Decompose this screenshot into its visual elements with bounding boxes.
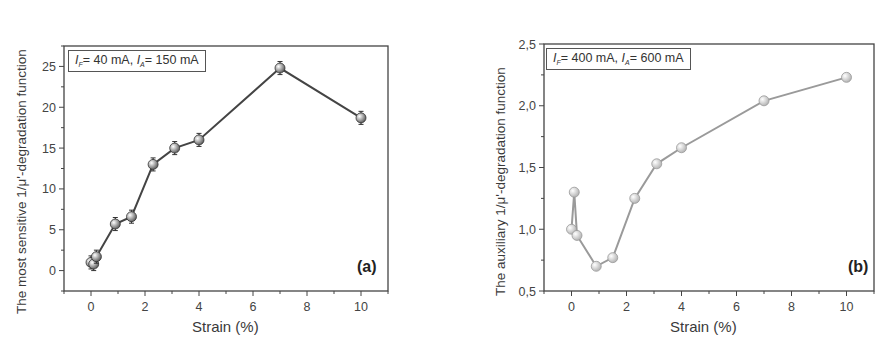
x-tick-label: 10 [354,300,368,314]
data-point-marker [572,230,582,240]
panel-label-b: (b) [848,258,868,276]
y-tick-label: 25 [42,60,56,74]
x-axis-label-a: Strain (%) [192,318,259,335]
y-tick-label: 1,5 [519,161,536,175]
plot-frame [544,44,874,291]
data-point-marker [275,63,285,73]
plot-frame [64,46,388,291]
y-tick-label: 20 [42,101,56,115]
legend-ia-value: = 600 mA [630,51,684,65]
x-tick-label: 10 [840,300,854,314]
y-axis-label-a: The most sensitive 1/μ'-degradation func… [14,49,29,314]
y-tick-label: 15 [42,142,56,156]
data-point-marker [652,159,662,169]
series-line [91,68,361,264]
y-tick-label: 2,5 [519,38,536,52]
data-point-marker [356,113,366,123]
legend-if-value: = 40 mA, [83,53,137,67]
chart-panel-a: 02468100510152025 The most sensitive 1/μ… [0,0,448,352]
x-tick-label: 4 [196,300,203,314]
x-tick-label: 8 [788,300,795,314]
data-point-marker [842,72,852,82]
legend-ia-value: = 150 mA [145,53,199,67]
x-tick-label: 8 [304,300,311,314]
y-axis-label-b: The auxiliary 1/μ'-degradation function [493,67,508,296]
data-point-marker [194,135,204,145]
series-line [572,77,847,266]
data-point-marker [608,253,618,263]
x-tick-label: 6 [733,300,740,314]
data-point-marker [630,193,640,203]
data-point-marker [110,219,120,229]
data-point-marker [127,212,137,222]
y-tick-label: 2,0 [519,99,536,113]
legend-b: IF= 400 mA, IA= 600 mA [546,48,691,70]
data-point-marker [677,143,687,153]
data-point-marker [170,143,180,153]
chart-panel-b: 02468100,51,01,52,02,5 The auxiliary 1/μ… [448,0,896,352]
data-point-marker [569,187,579,197]
x-tick-label: 6 [250,300,257,314]
y-tick-label: 5 [49,223,56,237]
y-tick-label: 1,0 [519,223,536,237]
y-tick-label: 0,5 [519,285,536,299]
y-tick-label: 10 [42,182,56,196]
x-tick-label: 0 [568,300,575,314]
x-tick-label: 4 [678,300,685,314]
x-tick-label: 2 [142,300,149,314]
data-point-marker [148,159,158,169]
data-point-marker [759,96,769,106]
data-point-marker [591,261,601,271]
legend-if-value: = 400 mA, [561,51,622,65]
y-tick-label: 0 [49,264,56,278]
legend-a: IF= 40 mA, IA= 150 mA [68,50,206,72]
panel-label-a: (a) [357,258,377,276]
x-tick-label: 2 [623,300,630,314]
data-point-marker [91,252,101,262]
x-tick-label: 0 [88,300,95,314]
x-axis-label-b: Strain (%) [670,318,737,335]
